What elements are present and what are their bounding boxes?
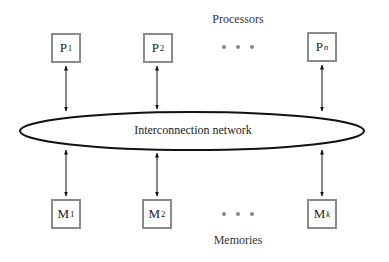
memory-m2-box: M2 [142,199,172,229]
processor-pn-box: Pn [307,32,337,62]
memory-mk-box: Mk [307,199,337,229]
ellipsis-dot [250,212,254,216]
processor-p1-box: P1 [51,33,81,63]
processor-pn-subscript: n [324,42,329,52]
processor-p1-subscript: 1 [68,43,73,53]
memory-m2-subscript: 2 [161,209,166,219]
processor-p2-subscript: 2 [160,43,165,53]
interconnection-network-label: Interconnection network [134,123,252,138]
processors-title: Processors [212,12,263,27]
processor-ellipsis [222,45,254,49]
memory-m1-box: M1 [51,199,81,229]
memory-ellipsis [222,212,254,216]
processor-p2-box: P2 [143,33,173,63]
ellipsis-dot [222,45,226,49]
memory-mk-label: M [314,206,326,222]
memory-mk-subscript: k [326,209,330,219]
memories-title: Memories [214,233,263,248]
ellipsis-dot [250,45,254,49]
ellipsis-dot [236,45,240,49]
ellipsis-dot [222,212,226,216]
memory-m2-label: M [148,206,160,222]
processor-p2-label: P [152,40,159,56]
processor-p1-label: P [60,40,67,56]
memory-m1-label: M [57,206,69,222]
processor-pn-label: P [316,39,323,55]
ellipsis-dot [236,212,240,216]
memory-m1-subscript: 1 [70,209,75,219]
